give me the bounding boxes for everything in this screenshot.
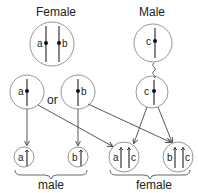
offspring-bc-b-letter: b <box>167 152 173 163</box>
offspring-b-letter: b <box>72 152 78 163</box>
allele-c: c <box>146 36 151 47</box>
offspring-b-cell <box>68 147 88 167</box>
gamete-c-letter: c <box>144 86 149 97</box>
offspring-a-cell <box>14 147 34 167</box>
male-parent-cell <box>134 24 172 62</box>
allele-a: a <box>37 38 43 49</box>
offspring-bc-c-letter: c <box>185 152 190 163</box>
offspring-ac-c-letter: c <box>131 152 136 163</box>
gamete-c-cell <box>136 76 168 108</box>
gamete-a-letter: a <box>18 86 24 97</box>
offspring-ac-a-letter: a <box>113 152 119 163</box>
offspring-a-letter: a <box>18 152 24 163</box>
haplodiploidy-diagram: a b c a b c a b a c b c <box>0 0 198 193</box>
allele-b: b <box>62 38 68 49</box>
gamete-b-letter: b <box>81 86 87 97</box>
